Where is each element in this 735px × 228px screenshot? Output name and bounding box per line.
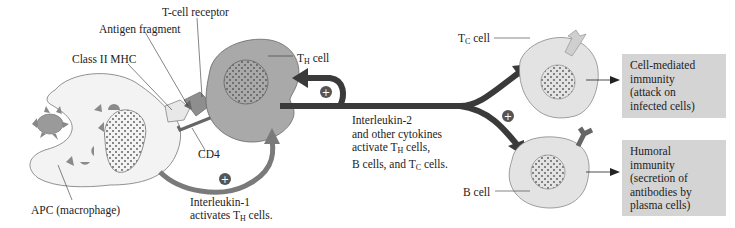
antibody-icon [578, 128, 592, 146]
label-t-cell-receptor: T-cell receptor [162, 6, 229, 19]
label-antigen-fragment: Antigen fragment [99, 23, 180, 36]
tc-cell [520, 30, 599, 118]
label-cd4: CD4 [198, 148, 220, 161]
arrow-right-icon [610, 76, 620, 84]
label-interleukin2: Interleukin-2 and other cytokines activa… [352, 114, 448, 174]
cell-mediated-immunity-box: Cell-mediated immunity (attack on infect… [622, 54, 726, 118]
arrow-right-icon [610, 168, 620, 176]
apc-macrophage [30, 74, 181, 187]
label-b-cell: B cell [463, 186, 490, 199]
label-th-cell: TH cell [297, 52, 329, 68]
svg-text:+: + [322, 87, 330, 98]
svg-text:+: + [221, 174, 229, 185]
label-tc-cell: TC cell [458, 32, 490, 48]
label-interleukin1: Interleukin-1 activates TH cells. [190, 196, 273, 225]
th-cell [206, 39, 299, 142]
label-class-ii-mhc: Class II MHC [72, 53, 137, 66]
label-apc: APC (macrophage) [31, 204, 120, 217]
th-nucleus [224, 60, 268, 104]
svg-text:+: + [504, 111, 512, 122]
b-cell [509, 128, 592, 208]
humoral-immunity-box: Humoral immunity (secretion of antibodie… [622, 140, 726, 216]
